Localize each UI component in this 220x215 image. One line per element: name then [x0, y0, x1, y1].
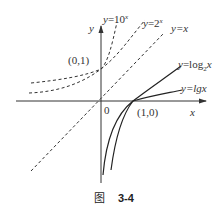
curve-y-lg-x — [111, 90, 182, 170]
figure-caption-number: 3-4 — [118, 192, 135, 204]
label-y-10-pow-x: y=10x — [102, 13, 129, 25]
label-y-log2-x: y=log2x — [177, 58, 212, 73]
label-y-2-pow-x: y=2x — [142, 17, 164, 29]
curve-y-10-pow-x — [31, 22, 117, 83]
label-y-lg-x: y=lgx — [180, 82, 207, 94]
x-axis-label: x — [189, 106, 195, 118]
y-axis-label: y — [88, 22, 94, 34]
function-graph: y x 0 (0,1) (1,0) y=10x y=2x y=x y=log2x… — [0, 0, 220, 215]
origin-label: 0 — [104, 104, 110, 116]
point-label-1-0: (1,0) — [137, 106, 158, 119]
point-label-0-1: (0,1) — [68, 54, 89, 67]
figure-caption-prefix: 图 — [94, 192, 105, 204]
label-10-prefix: =10 — [108, 13, 126, 25]
curve-y-log2-x — [103, 66, 181, 175]
curve-y-equals-x — [31, 34, 163, 171]
label-y-equals-x: y=x — [170, 22, 188, 34]
